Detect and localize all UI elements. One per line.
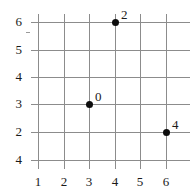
- gridline-vertical: [140, 14, 141, 169]
- x-axis-tick-label: 5: [130, 175, 150, 188]
- y-axis-tick-label: 4: [2, 70, 22, 83]
- data-point-label: 4: [172, 118, 179, 131]
- gridline-vertical: [89, 14, 90, 169]
- y-axis-tick-label: 5: [2, 43, 22, 56]
- x-axis-tick-label: 1: [28, 175, 48, 188]
- data-point: [163, 129, 170, 136]
- scatter-plot-figure: 6 5 4 3 2 4 1 2 3 4 5 6 2 0 4: [0, 0, 190, 191]
- stray-mark: [26, 32, 30, 33]
- y-axis-tick-label: 4: [2, 153, 22, 166]
- gridline-vertical: [166, 14, 167, 169]
- x-axis-tick-label: 3: [79, 175, 99, 188]
- y-axis-tick-label: 6: [2, 15, 22, 28]
- data-point: [112, 19, 119, 26]
- y-axis-tick-label: 3: [2, 97, 22, 110]
- x-axis-tick-label: 4: [105, 175, 125, 188]
- y-axis-tick-label: 2: [2, 125, 22, 138]
- data-point-label: 0: [95, 90, 102, 103]
- data-point: [86, 101, 93, 108]
- data-point-label: 2: [121, 8, 128, 21]
- gridline-vertical: [38, 14, 39, 169]
- gridline-vertical: [115, 14, 116, 169]
- gridline-vertical: [64, 14, 65, 169]
- x-axis-tick-label: 6: [156, 175, 176, 188]
- x-axis-tick-label: 2: [54, 175, 74, 188]
